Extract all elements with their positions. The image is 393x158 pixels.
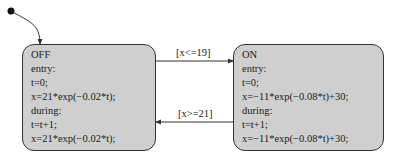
state-on-line: during: (242, 104, 383, 118)
state-off-line: t=0; (31, 76, 155, 90)
state-off-line: during: (31, 104, 155, 118)
state-on-line: entry: (242, 62, 383, 76)
guard-on-to-off: [x>=21] (178, 108, 213, 119)
state-on-line: t=0; (242, 76, 383, 90)
state-off[interactable]: OFF entry: t=0; x=21*exp(−0.02*t); durin… (22, 44, 156, 151)
state-on-name: ON (242, 48, 383, 62)
state-on-line: t=t+1; (242, 118, 383, 132)
state-off-name: OFF (31, 48, 155, 62)
state-off-line: t=t+1; (31, 118, 155, 132)
state-on-line: x=−11*exp(−0.08*t)+30; (242, 90, 383, 104)
state-on-line: x=−11*exp(−0.08*t)+30; (242, 132, 383, 146)
state-off-line: x=21*exp(−0.02*t); (31, 132, 155, 146)
state-off-line: x=21*exp(−0.02*t); (31, 90, 155, 104)
stateflow-diagram: OFF entry: t=0; x=21*exp(−0.02*t); durin… (0, 0, 393, 158)
state-on[interactable]: ON entry: t=0; x=−11*exp(−0.08*t)+30; du… (233, 44, 384, 151)
state-off-line: entry: (31, 62, 155, 76)
guard-off-to-on: [x<=19] (176, 47, 211, 58)
default-transition-arrow (11, 11, 40, 44)
